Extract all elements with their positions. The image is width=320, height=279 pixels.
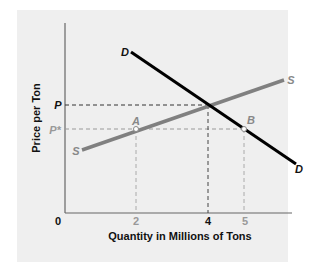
tick-2-label: 2 xyxy=(133,215,139,227)
chart-svg: Price per Ton Quantity in Millions of To… xyxy=(0,0,320,279)
demand-start-label: D xyxy=(121,46,129,58)
demand-end-label: D xyxy=(295,163,303,175)
supply-start-label: S xyxy=(72,145,80,157)
price-pstar-label: P* xyxy=(49,124,61,136)
y-axis-label: Price per Ton xyxy=(30,83,42,153)
origin-label: 0 xyxy=(55,215,61,227)
price-p-label: P xyxy=(54,99,62,111)
point-a-marker xyxy=(134,127,139,132)
tick-4-label: 4 xyxy=(205,215,212,227)
supply-end-label: S xyxy=(287,74,295,86)
point-b-label: B xyxy=(247,114,255,126)
demand-curve xyxy=(131,52,296,164)
tick-5-label: 5 xyxy=(242,215,248,227)
x-axis-label: Quantity in Millions of Tons xyxy=(108,230,251,242)
point-a-label: A xyxy=(131,115,140,127)
point-b-marker xyxy=(242,127,247,132)
